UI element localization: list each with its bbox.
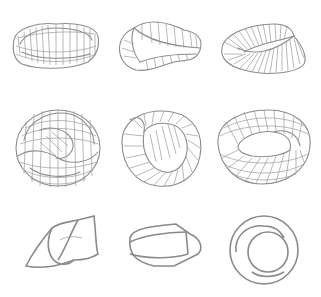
mobius-strip-ruled-figure — [214, 14, 314, 78]
twisted-band-ruled-figure — [112, 10, 210, 78]
surface-figure-grid — [0, 0, 321, 297]
knotted-torus-grid-figure — [10, 100, 106, 192]
twisted-torus-ruled-figure — [112, 100, 208, 192]
prism-band-outline-figure — [124, 220, 206, 272]
mobius-strip-grid-figure — [8, 14, 104, 74]
twisted-torus-grid-figure — [212, 100, 316, 190]
double-ring-outline-figure — [226, 212, 302, 288]
folded-band-outline-figure — [22, 214, 102, 278]
